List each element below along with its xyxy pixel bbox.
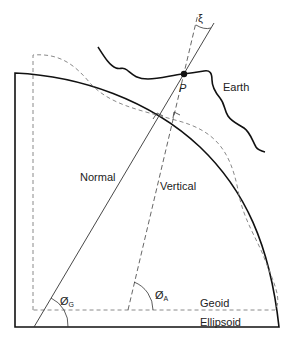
- geodesy-diagram: [0, 0, 294, 343]
- normal-label: Normal: [80, 172, 115, 183]
- xi-label: ξ: [198, 13, 203, 24]
- phi-g-symbol: Ø: [60, 295, 69, 307]
- phi-a-symbol: Ø: [155, 289, 164, 301]
- geoid-label: Geoid: [200, 298, 229, 309]
- xi-angle-arc: [196, 25, 211, 29]
- earth-surface: [98, 47, 265, 152]
- earth-label: Earth: [223, 82, 249, 93]
- vertical-label: Vertical: [160, 181, 196, 192]
- phi-g-subscript: G: [69, 301, 74, 308]
- phi-a-label: ØA: [155, 290, 168, 302]
- point-p: [181, 71, 187, 77]
- ellipsoid-label: Ellipsoid: [200, 317, 241, 328]
- phi-g-label: ØG: [60, 296, 74, 308]
- phi-a-subscript: A: [164, 295, 169, 302]
- ellipsoid-outline: [15, 73, 279, 327]
- phi-a-angle-arc: [134, 282, 153, 310]
- point-p-label: P: [179, 83, 186, 94]
- vertical-line: [128, 14, 198, 310]
- geoid-outline: [33, 55, 278, 310]
